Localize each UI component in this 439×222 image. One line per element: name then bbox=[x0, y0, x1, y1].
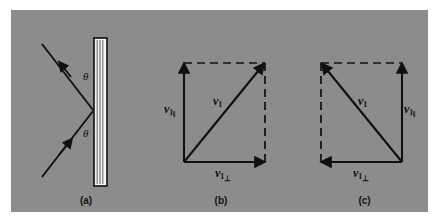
v1-perp-sub2: ⊥ bbox=[362, 174, 369, 183]
panel-a-diagram bbox=[11, 10, 161, 212]
panel-c-caption: (c) bbox=[301, 195, 428, 206]
panel-c: v1‖ v1 v1⊥ (c) bbox=[301, 10, 428, 212]
v1-perp-sub2: ⊥ bbox=[224, 174, 231, 183]
v1-perpendicular-label: v1⊥ bbox=[215, 167, 231, 183]
panel-b-caption: (b) bbox=[151, 195, 291, 206]
incoming-ray bbox=[42, 111, 93, 177]
figure-plate: θ θ (a) bbox=[11, 10, 428, 212]
panel-b: v1‖ v1 v1⊥ (b) bbox=[151, 10, 291, 212]
incoming-ray-arrowhead bbox=[59, 140, 71, 155]
v1-resultant-label: v1 bbox=[358, 95, 367, 109]
v1-parallel-label: v1‖ bbox=[164, 103, 175, 119]
panel-a: θ θ (a) bbox=[11, 10, 161, 212]
v1-resultant-label: v1 bbox=[213, 95, 222, 109]
v1-parallel-sub2: ‖ bbox=[173, 110, 176, 119]
angle-label-lower: θ bbox=[83, 128, 88, 139]
v1-resultant-sub: 1 bbox=[363, 100, 367, 109]
v1-perpendicular-label: v1⊥ bbox=[353, 167, 369, 183]
wall bbox=[94, 38, 107, 186]
v1-resultant-sub: 1 bbox=[218, 100, 222, 109]
v1-parallel-label: v1‖ bbox=[404, 103, 415, 119]
v1-resultant-arrow bbox=[184, 65, 263, 162]
wall-body bbox=[94, 38, 107, 186]
v1-parallel-sub2: ‖ bbox=[413, 110, 416, 119]
figure-root: θ θ (a) bbox=[0, 0, 439, 222]
v1-resultant-arrow bbox=[323, 65, 402, 162]
panel-a-caption: (a) bbox=[11, 195, 161, 206]
angle-label-upper: θ bbox=[83, 71, 88, 82]
